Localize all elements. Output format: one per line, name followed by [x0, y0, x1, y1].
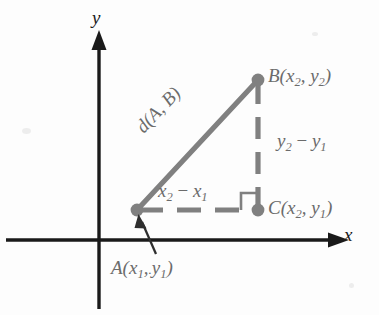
label-point-b-close: ) [325, 65, 331, 86]
label-leg-horizontal-sub2: 1 [201, 190, 207, 204]
label-point-c-var2: y [311, 197, 319, 218]
label-point-a: A(x1,.y1) [111, 258, 173, 280]
label-point-c-close: ) [326, 197, 332, 218]
vertex-dot-b [252, 74, 265, 87]
label-point-a-var2: y [152, 257, 160, 278]
x-axis-label: x [344, 225, 352, 244]
label-leg-horizontal: x2 − x1 [158, 181, 208, 203]
label-point-b-var2: y [310, 65, 318, 86]
pointer-arrow-to-a [135, 214, 157, 254]
label-point-c-name: C [268, 197, 281, 218]
y-axis-label: y [92, 8, 100, 27]
label-point-c: C(x2, y1) [268, 198, 332, 220]
vertex-dot-c [252, 204, 265, 217]
label-point-c-comma: , [302, 197, 312, 218]
vertex-dot-a [131, 204, 144, 217]
label-point-a-name: A [111, 257, 123, 278]
label-leg-vertical-sub2: 1 [320, 140, 326, 154]
label-leg-vertical: y2 − y1 [277, 131, 327, 153]
label-leg-horizontal-operator: − [173, 180, 193, 201]
figure-canvas [0, 0, 379, 315]
label-point-b: B(x2, y2) [268, 66, 331, 88]
label-point-b-comma: , [301, 65, 311, 86]
y-axis-arrowhead [92, 30, 107, 50]
label-point-a-close: ) [166, 257, 172, 278]
label-leg-vertical-operator: − [292, 130, 312, 151]
label-point-b-name: B [268, 65, 280, 86]
distance-formula-figure: B(x2, y2) C(x2, y1) A(x1,.y1) y2 − y1 x2… [0, 0, 379, 315]
